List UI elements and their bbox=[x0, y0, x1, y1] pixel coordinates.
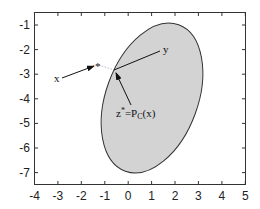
x-tick-label: -4 bbox=[29, 189, 40, 203]
x-tick-label: -1 bbox=[99, 189, 110, 203]
y-tick-labels: -1 -2 -3 -4 -5 -6 -7 bbox=[19, 18, 30, 180]
x-tick-label: 1 bbox=[148, 189, 155, 203]
x-tick-label: 5 bbox=[242, 189, 249, 203]
y-tick-label: -5 bbox=[19, 116, 30, 130]
x-tick-label: -2 bbox=[76, 189, 87, 203]
projection-eq: =P bbox=[125, 107, 137, 119]
x-tick-label: -3 bbox=[53, 189, 64, 203]
x-tick-label: 4 bbox=[219, 189, 226, 203]
y-tick-label: -2 bbox=[19, 43, 30, 57]
projection-figure: -4 -3 -2 -1 0 1 2 3 4 5 -1 -2 -3 -4 -5 -… bbox=[0, 0, 260, 209]
star-marker: * bbox=[95, 60, 101, 72]
y-point-label: y bbox=[163, 43, 169, 55]
convex-set-ellipse bbox=[82, 9, 222, 187]
y-tick-label: -4 bbox=[19, 92, 30, 106]
x-tick-label: 3 bbox=[195, 189, 202, 203]
x-point-label: x bbox=[54, 72, 60, 84]
y-tick-label: -6 bbox=[19, 141, 30, 155]
y-tick-label: -7 bbox=[19, 166, 30, 180]
x-tick-labels: -4 -3 -2 -1 0 1 2 3 4 5 bbox=[29, 189, 249, 203]
dotted-segment bbox=[99, 65, 114, 70]
projection-arg: (x) bbox=[143, 107, 156, 120]
x-tick-label: 2 bbox=[172, 189, 179, 203]
y-tick-label: -3 bbox=[19, 67, 30, 81]
x-tick-label: 0 bbox=[125, 189, 132, 203]
y-tick-label: -1 bbox=[19, 18, 30, 32]
arrow-x-to-star bbox=[62, 66, 94, 78]
